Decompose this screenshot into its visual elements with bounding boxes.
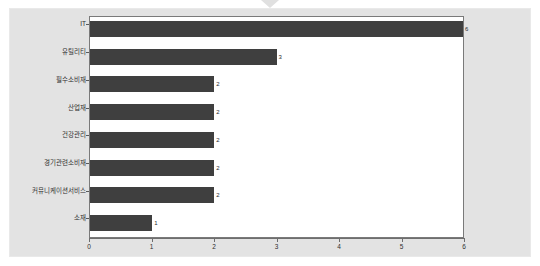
horizontal-bar-chart: IT 유틸리티 필수소비재 산업재 건강관리 경기관련소비재 커뮤니케이션서비스… <box>10 9 532 258</box>
chart-card: IT 유틸리티 필수소비재 산업재 건강관리 경기관련소비재 커뮤니케이션서비스… <box>9 8 531 257</box>
bar[interactable] <box>90 187 214 203</box>
x-axis-tick-label: 0 <box>87 243 91 250</box>
bar-row: 2 <box>90 156 463 181</box>
x-axis-tick-label: 1 <box>150 243 154 250</box>
screenshot-root: IT 유틸리티 필수소비재 산업재 건강관리 경기관련소비재 커뮤니케이션서비스… <box>0 0 540 266</box>
bar-row: 1 <box>90 211 463 236</box>
bar-value-label: 2 <box>214 160 219 176</box>
x-axis-tick <box>464 238 465 242</box>
bar[interactable] <box>90 49 277 65</box>
bar[interactable] <box>90 104 214 120</box>
bar[interactable] <box>90 215 152 231</box>
bar-row: 2 <box>90 183 463 208</box>
bar-value-label: 1 <box>152 215 157 231</box>
x-axis-tick-label: 3 <box>275 243 279 250</box>
bar-row: 2 <box>90 100 463 125</box>
x-axis-tick-label: 5 <box>400 243 404 250</box>
x-axis-tick-label: 4 <box>337 243 341 250</box>
bar-value-label: 2 <box>214 76 219 92</box>
bar-row: 2 <box>90 72 463 97</box>
bar-value-label: 6 <box>463 21 468 37</box>
y-axis-ticks <box>10 16 89 238</box>
bar-row: 3 <box>90 45 463 70</box>
x-axis-tick <box>402 238 403 242</box>
x-axis-tick <box>152 238 153 242</box>
bar-value-label: 2 <box>214 104 219 120</box>
bar-row: 6 <box>90 17 463 42</box>
bar-value-label: 2 <box>214 132 219 148</box>
x-axis-tick-label: 6 <box>462 243 466 250</box>
x-axis: 0 1 2 3 4 5 6 <box>89 238 464 258</box>
x-axis-tick <box>339 238 340 242</box>
bar[interactable] <box>90 21 463 37</box>
bar-row: 2 <box>90 128 463 153</box>
plot-area: 6 3 2 2 2 <box>89 16 464 238</box>
bar[interactable] <box>90 132 214 148</box>
x-axis-tick <box>277 238 278 242</box>
x-axis-tick <box>214 238 215 242</box>
bar[interactable] <box>90 160 214 176</box>
bar-value-label: 3 <box>277 49 282 65</box>
x-axis-tick <box>89 238 90 242</box>
bar-value-label: 2 <box>214 187 219 203</box>
x-axis-tick-label: 2 <box>212 243 216 250</box>
bar[interactable] <box>90 76 214 92</box>
